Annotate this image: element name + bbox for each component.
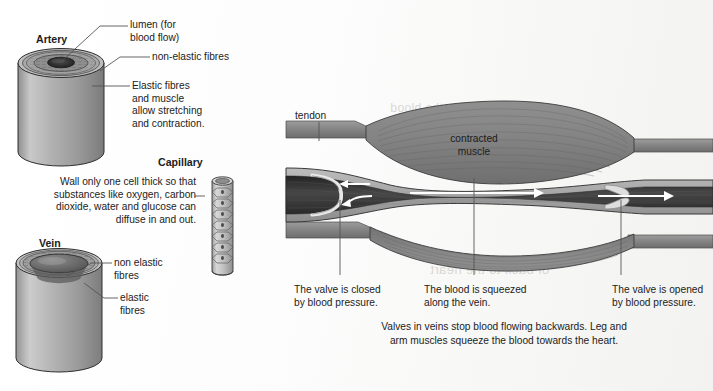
label-artery-lumen: lumen (for blood flow) xyxy=(130,19,179,44)
vein-heading: Vein xyxy=(39,237,61,250)
tendon-lower-right xyxy=(628,235,713,248)
label-vein-elastic-fibres: elastic fibres xyxy=(120,292,149,317)
figure-canvas: A valve in the blood of back to the hear… xyxy=(0,0,713,391)
muscle-vein-illustration xyxy=(286,101,713,275)
figure-caption: Valves in veins stop blood flowing backw… xyxy=(320,320,688,347)
label-contracted-muscle: contracted muscle xyxy=(426,133,522,158)
label-tendon: tendon xyxy=(295,110,326,123)
artery-heading: Artery xyxy=(36,33,67,46)
leader-non-elastic-fibres xyxy=(100,57,150,71)
tendon-lower-left xyxy=(286,222,372,238)
capillary-tube xyxy=(212,177,233,275)
label-artery-elastic-fibres: Elastic fibres and muscle allow stretchi… xyxy=(132,80,205,130)
vein-cylinder xyxy=(16,249,102,373)
label-artery-non-elastic-fibres: non-elastic fibres xyxy=(152,51,229,64)
label-vein-non-elastic-fibres: non elastic fibres xyxy=(114,257,163,282)
callout-right-valve: The valve is opened by blood pressure. xyxy=(612,284,703,309)
callout-left-valve: The valve is closed by blood pressure. xyxy=(294,284,381,309)
muscle-lower xyxy=(370,227,634,271)
tendon-upper-left xyxy=(286,121,368,138)
tendon-upper-right xyxy=(632,139,713,152)
capillary-heading: Capillary xyxy=(158,156,203,169)
callout-middle-vein: The blood is squeezed along the vein. xyxy=(424,284,527,309)
artery-cylinder xyxy=(18,49,104,167)
capillary-description: Wall only one cell thick so that substan… xyxy=(20,176,196,226)
